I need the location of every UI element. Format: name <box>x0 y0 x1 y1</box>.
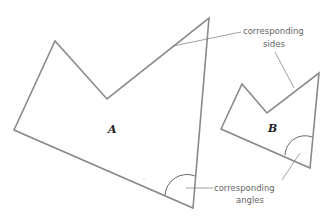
similar-figures-diagram: A B corresponding sides corresponding an… <box>0 0 331 223</box>
polygon-b <box>221 73 319 168</box>
sides-annotation-line1: corresponding <box>243 26 304 36</box>
angle-arc-b <box>285 136 312 155</box>
polygon-a <box>14 18 209 208</box>
dot-mark <box>143 178 144 179</box>
label-a: A <box>107 123 117 136</box>
angles-annotation-line1: corresponding <box>214 183 275 193</box>
label-b: B <box>267 122 277 135</box>
angle-arc-a <box>165 174 195 195</box>
sides-leader-b <box>275 52 294 88</box>
sides-annotation-line2: sides <box>263 39 285 49</box>
angles-annotation-line2: angles <box>236 195 265 205</box>
